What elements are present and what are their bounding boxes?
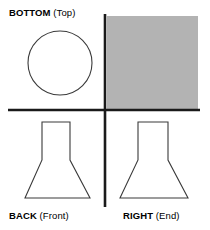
label-right-end-primary: RIGHT xyxy=(123,210,153,221)
label-back-front-paren: (Front) xyxy=(37,210,69,221)
label-bottom-top-primary: BOTTOM xyxy=(9,7,51,18)
shaded-quadrant-rectangle xyxy=(107,16,198,109)
label-bottom-top-paren: (Top) xyxy=(51,7,76,18)
orthographic-projection-drawing xyxy=(0,0,210,230)
label-right-end-paren: (End) xyxy=(153,210,179,221)
label-back-front-primary: BACK xyxy=(9,210,37,221)
label-back-front: BACK (Front) xyxy=(9,211,69,221)
back-view-flange-profile xyxy=(25,122,90,198)
projection-sheet: BOTTOM (Top) BACK (Front) RIGHT (End) xyxy=(0,0,210,230)
label-right-end: RIGHT (End) xyxy=(123,211,180,221)
right-view-flange-profile xyxy=(120,122,188,198)
label-bottom-top: BOTTOM (Top) xyxy=(9,8,75,18)
bottom-view-circle xyxy=(28,31,92,95)
